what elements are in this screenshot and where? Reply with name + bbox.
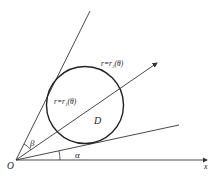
polar-region-diagram: r=r₂(θ) r=r₁(θ) D β α O x [0,0,214,185]
region-label: D [93,115,102,126]
ray-beta [16,11,90,160]
origin-label: O [7,161,14,171]
alpha-arc [59,151,60,160]
ray-alpha [16,125,179,160]
outer-curve-label: r=r₂(θ) [101,59,124,68]
ray-theta [16,63,157,160]
alpha-label: α [75,150,80,160]
inner-curve-label: r=r₁(θ) [54,97,77,106]
beta-label: β [29,138,35,148]
x-axis-label: x [203,162,208,171]
diagram-canvas: r=r₂(θ) r=r₁(θ) D β α O x [0,0,214,185]
